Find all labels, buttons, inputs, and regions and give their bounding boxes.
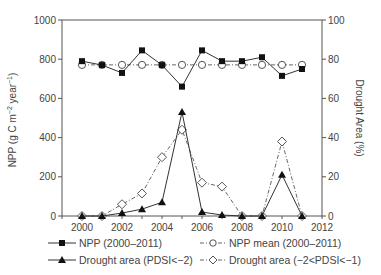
triangle-marker-icon (178, 108, 186, 115)
diamond-marker-icon (118, 200, 127, 209)
circle-marker-icon (278, 61, 285, 68)
diamond-marker-icon (158, 153, 167, 162)
left-tick-label: 600 (39, 93, 56, 104)
left-axis-ticks: 02004006008001000 (34, 15, 62, 222)
x-tick-label: 2008 (231, 222, 254, 233)
x-tick-label: 2002 (111, 222, 134, 233)
x-tick-label: 2000 (71, 222, 94, 233)
circle-marker-icon (198, 61, 205, 68)
svg-text:NPP mean (2000–2011): NPP mean (2000–2011) (229, 237, 341, 249)
square-marker-icon (259, 54, 265, 60)
legend-item-npp: NPP (2000–2011) (48, 237, 162, 249)
triangle-marker-icon (198, 208, 206, 215)
legend-item-drought-moderate: Drought area (−2<PDSI<−1) (200, 254, 361, 266)
legend: NPP (2000–2011) NPP mean (2000–2011) Dro… (48, 237, 361, 266)
diamond-marker-icon (138, 189, 147, 198)
series-0 (79, 47, 305, 89)
square-marker-icon (119, 70, 125, 76)
square-marker-icon (279, 73, 285, 79)
diamond-marker-icon (198, 178, 207, 187)
filled-square-marker-icon (59, 240, 65, 246)
series-3 (78, 125, 307, 220)
square-marker-icon (79, 58, 85, 64)
x-tick-label: 2012 (311, 222, 334, 233)
open-circle-marker-icon (210, 240, 216, 246)
x-tick-label: 2004 (151, 222, 174, 233)
diamond-marker-icon (278, 137, 287, 146)
square-marker-icon (219, 58, 225, 64)
svg-text:NPP (2000–2011): NPP (2000–2011) (79, 237, 162, 249)
series-1 (78, 61, 305, 68)
square-marker-icon (159, 62, 165, 68)
legend-item-drought-severe: Drought area (PDSI<−2) (48, 254, 193, 266)
square-marker-icon (199, 47, 205, 53)
right-tick-label: 20 (328, 171, 340, 182)
left-tick-label: 800 (39, 54, 56, 65)
right-tick-label: 100 (328, 15, 345, 26)
right-tick-label: 60 (328, 93, 340, 104)
open-diamond-marker-icon (209, 256, 217, 264)
right-axis-ticks: 020406080100 (322, 15, 345, 222)
x-tick-label: 2010 (271, 222, 294, 233)
circle-marker-icon (138, 61, 145, 68)
square-marker-icon (179, 84, 185, 90)
left-tick-label: 200 (39, 171, 56, 182)
left-tick-label: 0 (50, 211, 56, 222)
diamond-marker-icon (218, 182, 227, 191)
left-tick-label: 400 (39, 132, 56, 143)
plot-frame (62, 20, 322, 216)
x-tick-label: 2006 (191, 222, 214, 233)
legend-item-npp-mean: NPP mean (2000–2011) (200, 237, 341, 249)
left-axis-label: NPP (g C m−2 year−1) (6, 73, 18, 168)
square-marker-icon (139, 47, 145, 53)
circle-marker-icon (178, 61, 185, 68)
npp-drought-chart: 02004006008001000 020406080100 200020022… (0, 0, 381, 275)
svg-text:Drought area (PDSI<−2): Drought area (PDSI<−2) (79, 254, 193, 266)
right-tick-label: 80 (328, 54, 340, 65)
square-marker-icon (299, 66, 305, 72)
series-2 (78, 108, 306, 219)
square-marker-icon (239, 58, 245, 64)
circle-marker-icon (118, 61, 125, 68)
svg-text:Drought area (−2<PDSI<−1): Drought area (−2<PDSI<−1) (229, 254, 361, 266)
triangle-marker-icon (158, 198, 166, 205)
square-marker-icon (99, 62, 105, 68)
triangle-marker-icon (278, 171, 286, 178)
plot-border (62, 20, 322, 216)
left-tick-label: 1000 (34, 15, 57, 26)
circle-marker-icon (258, 61, 265, 68)
right-tick-label: 40 (328, 132, 340, 143)
right-axis-label: Drought Area (%) (354, 79, 365, 156)
right-tick-label: 0 (328, 211, 334, 222)
series-layer (78, 47, 307, 220)
